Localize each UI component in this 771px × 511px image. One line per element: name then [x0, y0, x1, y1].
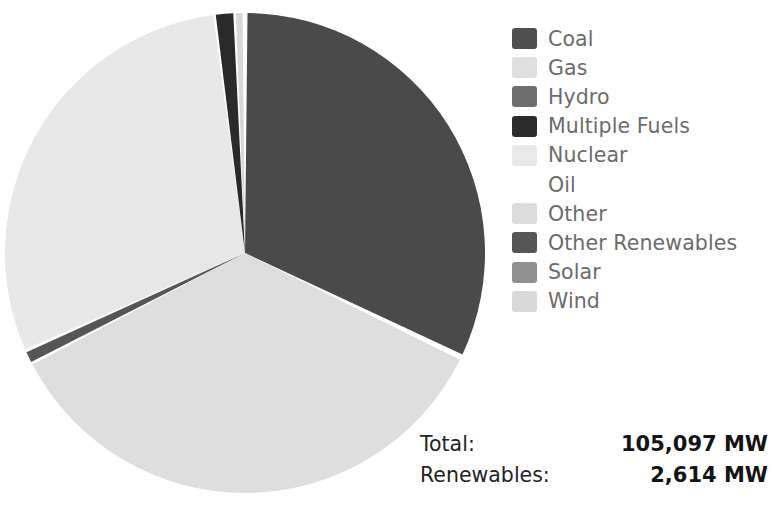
legend-item[interactable]: Hydro: [512, 82, 771, 111]
legend-swatch-icon: [512, 145, 537, 166]
legend-item-label: Solar: [548, 260, 601, 284]
legend-item[interactable]: Gas: [512, 53, 771, 82]
legend-swatch-icon: [512, 116, 537, 137]
legend-item[interactable]: Coal: [512, 24, 771, 53]
totals-label: Total:: [420, 432, 578, 456]
legend-item-label: Multiple Fuels: [548, 114, 690, 138]
totals-block: Total:105,097 MWRenewables:2,614 MW: [420, 432, 771, 494]
totals-row: Renewables:2,614 MW: [420, 463, 771, 494]
legend-swatch-icon: [512, 262, 537, 283]
legend-swatch-icon: [512, 28, 537, 49]
totals-label: Renewables:: [420, 463, 578, 487]
totals-row: Total:105,097 MW: [420, 432, 771, 463]
legend-item[interactable]: Wind: [512, 287, 771, 316]
totals-value: 2,614 MW: [578, 463, 768, 487]
legend-item-label: Coal: [548, 27, 594, 51]
legend-item[interactable]: Other Renewables: [512, 228, 771, 257]
legend-item-label: Other: [548, 202, 607, 226]
legend-item[interactable]: Other: [512, 199, 771, 228]
legend-swatch-icon: [512, 232, 537, 253]
legend-swatch-icon: [512, 86, 537, 107]
legend-item[interactable]: Multiple Fuels: [512, 112, 771, 141]
legend-item-label: Other Renewables: [548, 231, 737, 255]
chart-legend: CoalGasHydroMultiple FuelsNuclearOilOthe…: [512, 24, 771, 316]
legend-item-label: Nuclear: [548, 143, 628, 167]
legend-item-label: Hydro: [548, 85, 610, 109]
legend-item-label: Wind: [548, 289, 600, 313]
legend-swatch-icon: [512, 57, 537, 78]
totals-value: 105,097 MW: [578, 432, 768, 456]
legend-swatch-icon: [512, 291, 537, 312]
legend-item-label: Oil: [548, 173, 576, 197]
legend-item[interactable]: Nuclear: [512, 141, 771, 170]
pie-chart-panel: CoalGasHydroMultiple FuelsNuclearOilOthe…: [0, 0, 771, 511]
legend-swatch-icon: [512, 174, 537, 195]
legend-item[interactable]: Solar: [512, 258, 771, 287]
legend-swatch-icon: [512, 203, 537, 224]
legend-item[interactable]: Oil: [512, 170, 771, 199]
legend-item-label: Gas: [548, 56, 587, 80]
